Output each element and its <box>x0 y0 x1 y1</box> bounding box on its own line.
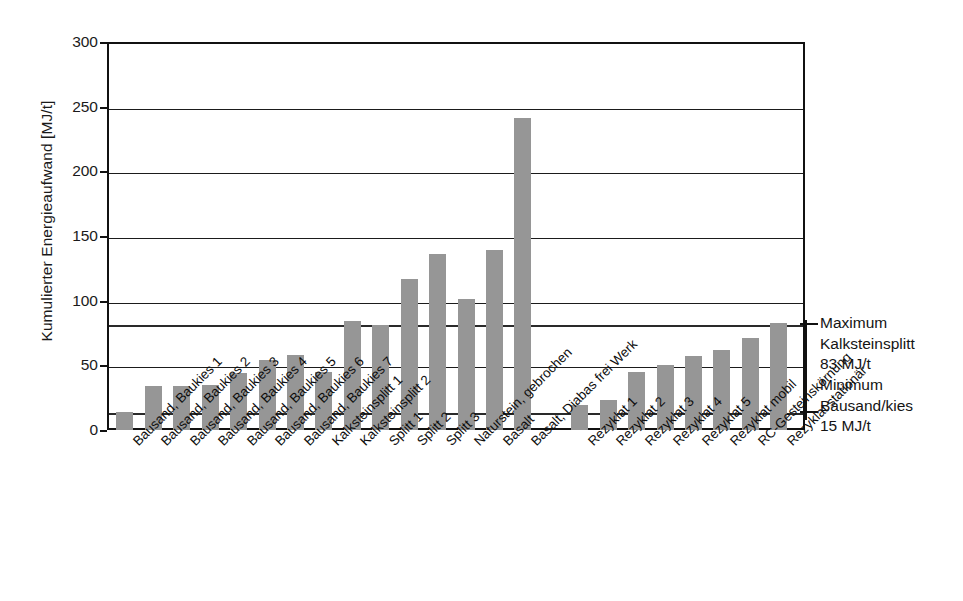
annotation-maximum-line1: Maximum <box>820 313 915 334</box>
min-tick-line <box>800 411 818 413</box>
x-axis-labels: Bausand, Baukies 1Bausand, Baukies 2Baus… <box>0 0 963 601</box>
chart-container: Kumulierter Energieaufwand [MJ/t] 050100… <box>0 0 963 601</box>
annotation-minimum-line2: Bausand/kies <box>820 396 913 417</box>
annotation-minimum: Minimum Bausand/kies 15 MJ/t <box>820 375 913 437</box>
max-tick-line <box>800 323 818 325</box>
annotation-maximum-line3: 83 MJ/t <box>820 354 915 375</box>
annotation-maximum: Maximum Kalksteinsplitt 83 MJ/t <box>820 313 915 375</box>
annotation-maximum-line2: Kalksteinsplitt <box>820 334 915 355</box>
annotation-minimum-line1: Minimum <box>820 375 913 396</box>
annotation-bracket <box>805 320 807 420</box>
annotation-minimum-line3: 15 MJ/t <box>820 416 913 437</box>
